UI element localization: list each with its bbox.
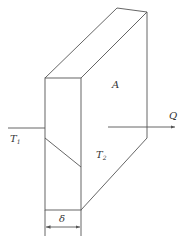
temp-left-label: T1 (10, 133, 21, 145)
wall-top-face (45, 8, 147, 78)
temp-right-label: T2 (96, 149, 107, 161)
temperature-profile-line (45, 138, 81, 167)
thickness-label: δ (59, 213, 65, 224)
wall-diagram: A Q T1 T2 δ (0, 0, 181, 244)
diagram-canvas: A Q T1 T2 δ (0, 0, 181, 244)
area-label: A (111, 79, 119, 90)
wall-side-face (81, 12, 147, 210)
wall-front-face (45, 78, 81, 210)
heat-flow-label: Q (169, 110, 177, 121)
